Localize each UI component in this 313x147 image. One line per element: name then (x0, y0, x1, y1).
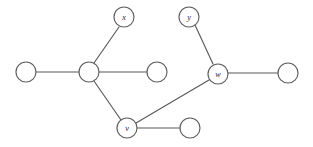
graph-edge-y-w (195, 25, 213, 64)
graph-node-circle-n2 (79, 62, 99, 82)
graph-edge-n2-x (94, 27, 119, 63)
graph-edge-w-v (136, 80, 209, 123)
graph-edge-n2-v (94, 81, 121, 120)
graph-node-circle-n5 (180, 118, 200, 138)
graph-node-label-v: v (125, 124, 129, 133)
graph-node-x: x (114, 7, 134, 27)
graph-node-n5 (180, 118, 200, 138)
graph-node-n1 (16, 62, 36, 82)
graph-node-label-x: x (121, 13, 126, 22)
graph-canvas: xywv (0, 0, 313, 147)
graph-node-w: w (208, 64, 228, 84)
graph-node-circle-n1 (16, 62, 36, 82)
graph-node-n2 (79, 62, 99, 82)
graph-node-label-y: y (186, 13, 191, 22)
graph-node-label-w: w (215, 70, 221, 79)
graph-figure: xywv (0, 0, 313, 147)
graph-node-circle-n4 (278, 63, 298, 83)
graph-node-y: y (179, 7, 199, 27)
graph-node-n3 (147, 62, 167, 82)
graph-node-circle-n3 (147, 62, 167, 82)
graph-node-n4 (278, 63, 298, 83)
graph-node-v: v (117, 118, 137, 138)
